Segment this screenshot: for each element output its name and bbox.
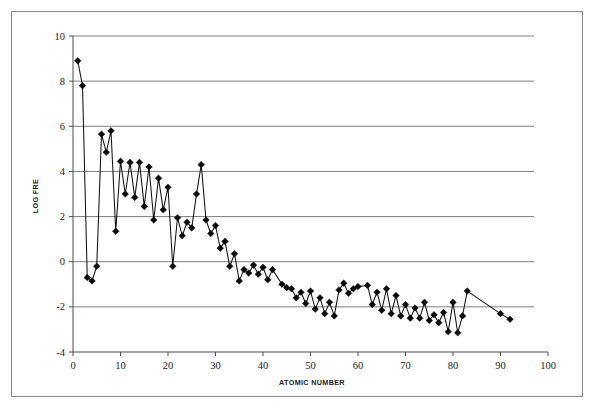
data-point-marker <box>169 263 176 270</box>
data-point-marker <box>131 194 138 201</box>
data-point-marker <box>388 310 395 317</box>
data-point-marker <box>264 276 271 283</box>
data-point-marker <box>98 131 105 138</box>
data-point-marker <box>122 191 129 198</box>
data-point-marker <box>497 310 504 317</box>
data-point-marker <box>393 292 400 299</box>
data-point-marker <box>302 300 309 307</box>
data-point-marker <box>217 245 224 252</box>
data-point-marker <box>507 316 514 323</box>
data-point-marker <box>331 313 338 320</box>
data-point-marker <box>378 307 385 314</box>
data-point-marker <box>174 214 181 221</box>
y-tick-label: 4 <box>60 166 66 177</box>
x-tick-label: 70 <box>400 360 411 371</box>
data-point-marker <box>79 82 86 89</box>
data-point-marker <box>364 282 371 289</box>
data-point-marker <box>136 159 143 166</box>
data-point-marker <box>260 264 267 271</box>
data-point-marker <box>179 232 186 239</box>
data-point-marker <box>307 288 314 295</box>
data-point-marker <box>207 230 214 237</box>
data-point-marker <box>454 330 461 337</box>
y-tick-label: 6 <box>60 121 65 132</box>
data-point-marker <box>326 299 333 306</box>
axis-lines <box>73 36 548 352</box>
data-point-marker <box>236 278 243 285</box>
x-tick-label: 40 <box>258 360 269 371</box>
scanned-page: -4-20246810 0102030405060708090100 ATOMI… <box>0 0 596 408</box>
data-point-marker <box>450 299 457 306</box>
gridlines <box>73 36 534 307</box>
data-point-marker <box>421 299 428 306</box>
data-point-marker <box>459 313 466 320</box>
data-point-marker <box>103 149 110 156</box>
data-point-marker <box>212 222 219 229</box>
data-point-marker <box>340 280 347 287</box>
data-point-marker <box>165 184 172 191</box>
data-point-marker <box>146 164 153 171</box>
data-point-marker <box>93 263 100 270</box>
data-point-marker <box>317 295 324 302</box>
data-point-marker <box>226 263 233 270</box>
data-point-marker <box>336 287 343 294</box>
x-tick-label: 30 <box>210 360 221 371</box>
data-point-marker <box>374 289 381 296</box>
data-point-marker <box>416 315 423 322</box>
x-tick-label: 100 <box>540 360 556 371</box>
data-point-marker <box>255 271 262 278</box>
x-tick-label: 0 <box>70 360 75 371</box>
data-point-marker <box>440 309 447 316</box>
data-point-marker <box>321 310 328 317</box>
y-tick-label: 0 <box>60 256 65 267</box>
x-tick-label: 20 <box>163 360 174 371</box>
data-point-marker <box>155 175 162 182</box>
data-point-marker <box>127 159 134 166</box>
x-tick-label: 50 <box>305 360 316 371</box>
y-tick-label: 10 <box>55 31 66 42</box>
data-point-marker <box>117 158 124 165</box>
data-point-marker <box>445 328 452 335</box>
tick-marks <box>69 36 548 356</box>
data-point-marker <box>250 262 257 269</box>
chart-figure: -4-20246810 0102030405060708090100 ATOMI… <box>0 0 596 408</box>
x-tick-label: 60 <box>353 360 364 371</box>
y-axis-tick-labels: -4-20246810 <box>55 31 66 358</box>
x-tick-label: 80 <box>448 360 459 371</box>
data-point-marker <box>397 313 404 320</box>
series-line-log-fre <box>78 61 510 333</box>
data-point-marker <box>193 191 200 198</box>
data-point-marker <box>231 251 238 258</box>
y-tick-label: 8 <box>60 76 65 87</box>
data-point-marker <box>412 305 419 312</box>
data-point-marker <box>74 58 81 65</box>
data-point-marker <box>203 217 210 224</box>
y-tick-label: -4 <box>56 347 65 358</box>
data-point-marker <box>112 228 119 235</box>
y-tick-label: 2 <box>60 211 65 222</box>
data-point-marker <box>222 238 229 245</box>
data-point-marker <box>383 286 390 293</box>
x-tick-label: 10 <box>115 360 126 371</box>
data-point-marker <box>160 207 167 214</box>
data-point-marker <box>464 288 471 295</box>
x-axis-tick-labels: 0102030405060708090100 <box>70 360 556 371</box>
data-point-marker <box>435 319 442 326</box>
data-point-marker <box>108 128 115 135</box>
data-point-marker <box>198 161 205 168</box>
data-point-marker <box>269 266 276 273</box>
y-tick-label: -2 <box>56 301 65 312</box>
x-tick-label: 90 <box>495 360 506 371</box>
data-point-marker <box>150 217 157 224</box>
data-point-marker <box>141 203 148 210</box>
y-axis-title: LOG FRE <box>31 179 40 213</box>
data-point-marker <box>407 315 414 322</box>
x-axis-title: ATOMIC NUMBER <box>279 378 345 387</box>
line-chart: -4-20246810 0102030405060708090100 ATOMI… <box>0 0 596 408</box>
